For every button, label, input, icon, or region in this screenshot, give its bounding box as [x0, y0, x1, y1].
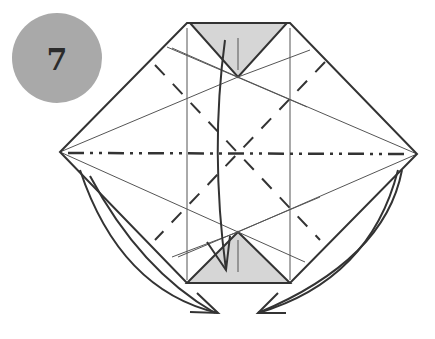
left-fold-behind-arrow: [80, 170, 218, 313]
origami-diagram: 7: [0, 0, 435, 339]
fold-diagram-svg: [0, 0, 435, 339]
mountain-fold: [68, 153, 410, 154]
fold-down-arrow: [207, 40, 230, 270]
valley-folds: [155, 62, 325, 240]
